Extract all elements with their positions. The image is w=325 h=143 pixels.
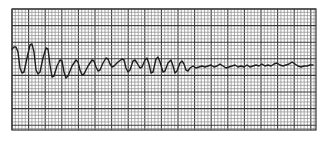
ecg-grid [12, 9, 316, 130]
ecg-strip [0, 0, 325, 143]
